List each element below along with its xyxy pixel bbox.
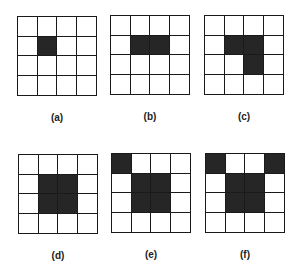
panel-label-b: (b) <box>110 111 190 122</box>
grid-cell-empty <box>78 194 98 214</box>
grid-cell-empty <box>19 155 39 175</box>
grid-cell-empty <box>205 36 225 56</box>
grid-cell-empty <box>111 16 131 36</box>
grid-cell-empty <box>170 16 190 36</box>
grid-cell-empty <box>18 76 38 96</box>
grid-cell-empty <box>38 76 58 96</box>
grid-cell-empty <box>111 55 131 75</box>
grid-cell-empty <box>57 56 77 76</box>
grid-cell-empty <box>226 154 246 174</box>
grid-f <box>205 153 285 233</box>
grid-cell-empty <box>226 213 246 233</box>
grid-cell-filled <box>245 174 265 194</box>
grid-cell-empty <box>264 36 284 56</box>
grid-cell-empty <box>18 56 38 76</box>
grid-cell-filled <box>132 174 152 194</box>
grid-cell-filled <box>39 194 59 214</box>
grid-cell-empty <box>264 55 284 75</box>
grid-cell-empty <box>111 36 131 56</box>
grid-cell-filled <box>112 154 132 174</box>
grid-cell-empty <box>205 75 225 95</box>
grid-cell-empty <box>206 213 226 233</box>
grid-cell-filled <box>265 154 285 174</box>
grid-cell-empty <box>58 155 78 175</box>
panel-label-f: (f) <box>205 249 285 260</box>
grid-cell-empty <box>225 16 245 36</box>
grid-cell-empty <box>57 17 77 37</box>
grid-cell-empty <box>112 193 132 213</box>
grid-cell-empty <box>19 175 39 195</box>
grid-cell-empty <box>19 214 39 234</box>
grid-cell-empty <box>171 174 191 194</box>
grid-cell-empty <box>206 174 226 194</box>
grid-cell-empty <box>244 75 264 95</box>
grid-cell-empty <box>170 36 190 56</box>
grid-cell-empty <box>112 174 132 194</box>
grid-cell-empty <box>77 37 97 57</box>
grid-e <box>111 153 191 233</box>
grid-cell-empty <box>151 154 171 174</box>
grid-cell-empty <box>150 75 170 95</box>
grid-cell-empty <box>131 75 151 95</box>
panel-label-d: (d) <box>18 250 98 261</box>
grid-b <box>110 15 190 95</box>
grid-cell-empty <box>131 16 151 36</box>
grid-cell-empty <box>264 16 284 36</box>
panel-label-e: (e) <box>111 249 191 260</box>
grid-cell-empty <box>131 55 151 75</box>
grid-cell-filled <box>132 193 152 213</box>
grid-cell-empty <box>205 55 225 75</box>
grid-cell-empty <box>78 155 98 175</box>
grid-cell-empty <box>18 37 38 57</box>
grid-cell-empty <box>245 213 265 233</box>
grid-cell-empty <box>206 193 226 213</box>
grid-cell-empty <box>132 213 152 233</box>
grid-cell-filled <box>58 175 78 195</box>
grid-cell-empty <box>58 214 78 234</box>
grid-cell-empty <box>225 55 245 75</box>
grid-cell-empty <box>225 75 245 95</box>
grid-cell-empty <box>77 56 97 76</box>
grid-cell-empty <box>245 154 265 174</box>
grid-cell-empty <box>151 213 171 233</box>
grid-cell-filled <box>206 154 226 174</box>
grid-cell-empty <box>39 155 59 175</box>
grid-cell-empty <box>38 17 58 37</box>
grid-d <box>18 154 98 234</box>
panel-label-c: (c) <box>204 111 284 122</box>
grid-a <box>17 16 97 96</box>
grid-cell-filled <box>226 193 246 213</box>
grid-cell-empty <box>112 213 132 233</box>
grid-cell-empty <box>111 75 131 95</box>
grid-cell-filled <box>151 174 171 194</box>
grid-c <box>204 15 284 95</box>
grid-cell-empty <box>38 56 58 76</box>
grid-cell-filled <box>244 36 264 56</box>
grid-cell-empty <box>132 154 152 174</box>
grid-cell-empty <box>39 214 59 234</box>
grid-cell-filled <box>245 193 265 213</box>
grid-cell-empty <box>264 75 284 95</box>
grid-cell-empty <box>171 193 191 213</box>
grid-cell-filled <box>226 174 246 194</box>
grid-cell-empty <box>150 16 170 36</box>
grid-cell-empty <box>170 55 190 75</box>
grid-cell-empty <box>265 174 285 194</box>
grid-cell-empty <box>57 37 77 57</box>
panel-label-a: (a) <box>17 112 97 123</box>
grid-cell-empty <box>18 17 38 37</box>
grid-cell-filled <box>244 55 264 75</box>
grid-cell-empty <box>265 193 285 213</box>
grid-cell-empty <box>171 213 191 233</box>
grid-cell-empty <box>77 17 97 37</box>
grid-cell-filled <box>151 193 171 213</box>
grid-cell-empty <box>77 76 97 96</box>
grid-cell-filled <box>58 194 78 214</box>
grid-cell-empty <box>19 194 39 214</box>
grid-cell-filled <box>150 36 170 56</box>
grid-cell-empty <box>57 76 77 96</box>
grid-cell-filled <box>39 175 59 195</box>
grid-cell-empty <box>265 213 285 233</box>
grid-cell-empty <box>205 16 225 36</box>
grid-cell-empty <box>78 214 98 234</box>
